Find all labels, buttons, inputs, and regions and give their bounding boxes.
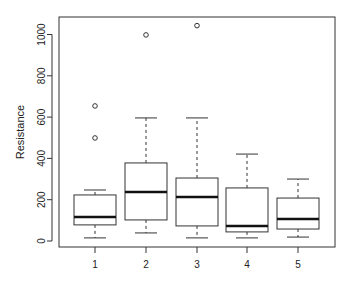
box-iqr xyxy=(277,198,319,229)
x-tick-label: 2 xyxy=(143,259,149,270)
box-3 xyxy=(176,23,218,238)
boxplot-chart: 02004006008001000 12345 Resistance xyxy=(0,0,349,282)
x-tick-label: 5 xyxy=(295,259,301,270)
y-tick-label: 800 xyxy=(36,67,47,84)
box-1 xyxy=(74,104,116,238)
y-tick-label: 1000 xyxy=(36,23,47,46)
y-axis-label: Resistance xyxy=(14,105,26,159)
y-tick-label: 0 xyxy=(36,238,47,244)
x-tick-label: 1 xyxy=(92,259,98,270)
x-tick-label: 3 xyxy=(194,259,200,270)
outlier-point xyxy=(93,104,98,109)
outlier-point xyxy=(93,136,98,141)
box-5 xyxy=(277,179,319,237)
y-tick-label: 400 xyxy=(36,150,47,167)
x-axis: 12345 xyxy=(92,247,301,270)
box-iqr xyxy=(176,178,218,226)
outlier-point xyxy=(144,33,149,38)
x-tick-label: 4 xyxy=(244,259,250,270)
outlier-point xyxy=(195,23,200,28)
box-4 xyxy=(226,154,268,238)
box-2 xyxy=(125,33,167,233)
y-tick-label: 600 xyxy=(36,108,47,125)
y-tick-label: 200 xyxy=(36,191,47,208)
box-series xyxy=(74,23,319,238)
y-axis: 02004006008001000 xyxy=(36,23,52,244)
box-iqr xyxy=(74,195,116,225)
